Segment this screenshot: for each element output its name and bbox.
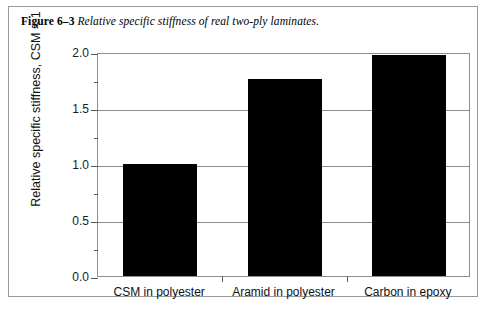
y-tick-minor: [94, 194, 98, 195]
y-tick-label: 2.0: [72, 46, 89, 60]
y-tick-minor: [94, 138, 98, 139]
plot-area: [89, 47, 471, 279]
y-tick-major: [91, 110, 98, 111]
y-tick-minor: [94, 250, 98, 251]
figure-caption: Figure 6–3 Relative specific stiffness o…: [21, 15, 461, 27]
x-tick-label: CSM in polyester: [113, 285, 204, 299]
x-tick: [222, 276, 223, 282]
x-tick-label: Carbon in epoxy: [364, 285, 451, 299]
bar: [123, 164, 197, 276]
y-tick-major: [91, 278, 98, 279]
y-axis-tick-labels: 0.00.51.01.52.0: [43, 53, 89, 277]
y-tick-label: 1.0: [72, 158, 89, 172]
y-tick-major: [91, 54, 98, 55]
bar: [248, 79, 322, 276]
y-axis-title: Relative specific stiffness, CSM = 1: [29, 0, 43, 221]
y-tick-label: 0.0: [72, 270, 89, 284]
x-tick-label: Aramid in polyester: [232, 285, 335, 299]
y-tick-label: 1.5: [72, 102, 89, 116]
y-tick-major: [91, 222, 98, 223]
figure-card: Figure 6–3 Relative specific stiffness o…: [8, 6, 478, 297]
plot-frame: [97, 53, 470, 277]
bar: [372, 55, 446, 276]
figure-caption-text: Relative specific stiffness of real two-…: [77, 15, 319, 27]
y-tick-label: 0.5: [72, 214, 89, 228]
y-tick-minor: [94, 82, 98, 83]
x-tick: [347, 276, 348, 282]
y-tick-major: [91, 166, 98, 167]
